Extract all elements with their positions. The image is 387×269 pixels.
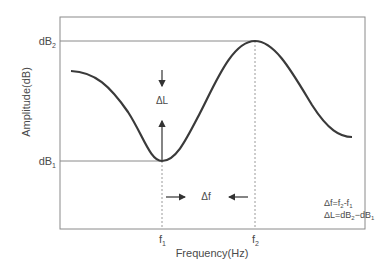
x-tick-f1: f1 [159, 233, 166, 247]
delta-l-label: ΔL [156, 95, 169, 106]
plot-frame [60, 17, 365, 229]
delta-f-label: Δf [201, 191, 211, 202]
x-axis-label: Frequency(Hz) [176, 247, 249, 259]
x-tick-f2: f2 [252, 233, 259, 247]
y-axis-label: Amplitude(dB) [20, 67, 32, 137]
formula-delta-l: ΔL=dB2−dB1 [324, 210, 375, 221]
y-tick-db1: dB1 [39, 155, 56, 169]
diagram-canvas: ΔL Δf dB2 dB1 f1 f2 Frequency(Hz) Amplit… [0, 0, 387, 269]
y-tick-db2: dB2 [39, 35, 56, 49]
response-curve [71, 41, 352, 161]
formula-delta-f: Δf=f2-f1 [324, 198, 353, 209]
